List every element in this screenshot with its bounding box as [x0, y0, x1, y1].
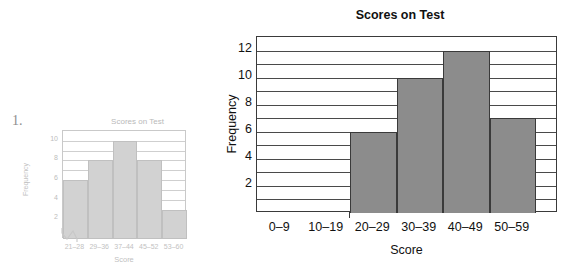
y-tick-label: 6 — [40, 174, 58, 181]
bar — [88, 160, 113, 239]
x-axis-label: Score — [62, 255, 186, 264]
bar — [490, 118, 537, 213]
plot-area — [256, 36, 557, 212]
bar — [113, 141, 138, 239]
y-tick-label: 12 — [219, 41, 252, 55]
x-axis-tick-mark — [349, 212, 350, 218]
y-tick-label: 4 — [219, 149, 252, 163]
gridline — [257, 64, 556, 65]
gridline — [257, 51, 556, 52]
bar — [162, 210, 187, 239]
bar — [443, 51, 490, 213]
y-tick-label: 6 — [219, 122, 252, 136]
y-tick-label: 2 — [40, 213, 58, 220]
bar — [397, 78, 444, 213]
x-tick-label: 30–39 — [396, 220, 443, 234]
x-tick-label: 29–36 — [87, 243, 112, 250]
x-tick-label: 21–28 — [62, 243, 87, 250]
x-tick-label: 40–49 — [442, 220, 489, 234]
histogram-large: Scores on Test Frequency 24681012 0–910–… — [215, 0, 572, 276]
x-tick-label: 37–44 — [112, 243, 137, 250]
bar — [137, 160, 162, 239]
y-tick-label: 8 — [219, 95, 252, 109]
x-tick-label: 10–19 — [303, 220, 350, 234]
chart-title: Scores on Test — [255, 8, 545, 22]
chart-title: Scores on Test — [85, 117, 190, 126]
y-tick-label: 8 — [40, 154, 58, 161]
x-tick-label: 50–59 — [489, 220, 536, 234]
y-tick-label: 10 — [219, 68, 252, 82]
y-tick-label: 2 — [219, 176, 252, 190]
x-axis-label: Score — [256, 243, 557, 257]
bar — [350, 132, 397, 213]
x-tick-label: 53–60 — [161, 243, 186, 250]
x-tick-label: 20–29 — [349, 220, 396, 234]
axis-break-icon — [60, 226, 80, 242]
x-tick-label: 45–52 — [136, 243, 161, 250]
y-tick-label: 10 — [40, 135, 58, 142]
y-tick-label: 4 — [40, 194, 58, 201]
plot-area — [62, 130, 186, 238]
y-axis-label: Frequency — [22, 150, 29, 210]
histogram-small: Scores on Test Frequency 246810 21–2829–… — [0, 100, 210, 276]
x-tick-label: 0–9 — [256, 220, 303, 234]
